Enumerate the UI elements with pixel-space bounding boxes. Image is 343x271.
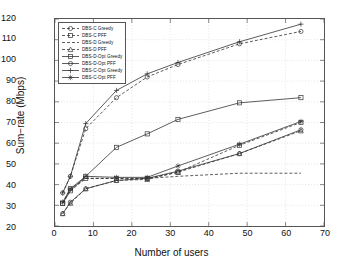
series-dbs-c-opt-pff <box>60 119 304 205</box>
legend-sample-square-icon <box>61 53 80 60</box>
figure-container: 2030405060708090100110120 01020304050607… <box>0 0 343 271</box>
legend-sample-circle-icon <box>61 60 80 67</box>
legend-item-dbs-c-greedy[interactable]: DBS-C Greedy <box>61 25 122 32</box>
x-tick-20: 20 <box>116 229 146 238</box>
legend-label: DBS-C PFF <box>82 32 107 39</box>
legend-label: DBS-C-Opt PFF <box>82 74 116 81</box>
legend-item-dbs-c-opt-greedy[interactable]: DBS-C-Opt Greedy <box>61 67 122 74</box>
legend-sample-star-icon <box>61 74 80 81</box>
series-dbs-d-opt-pff <box>61 128 303 216</box>
legend-item-dbs-d-opt-greedy[interactable]: DBS-D-Opt Greedy <box>61 53 122 60</box>
legend-label: DBS-D Greedy <box>82 39 113 46</box>
series-dbs-c-pff <box>61 120 303 205</box>
legend-item-dbs-d-opt-pff[interactable]: DBS-D-Opt PFF <box>61 60 122 67</box>
x-axis-label: Number of users <box>0 247 343 258</box>
series-dbs-d-greedy <box>63 173 301 203</box>
y-axis-label: Sum−rate (Mbps) <box>15 36 26 196</box>
x-tick-30: 30 <box>155 229 185 238</box>
legend-sample-triangle-icon <box>61 46 80 53</box>
x-tick-10: 10 <box>78 229 108 238</box>
legend-item-dbs-d-pff[interactable]: DBS-D PFF <box>61 46 122 53</box>
legend-item-dbs-c-opt-pff[interactable]: DBS-C-Opt PFF <box>61 74 122 81</box>
x-tick-60: 60 <box>271 229 301 238</box>
legend-sample-none-icon <box>61 39 80 46</box>
series-dbs-d-opt-greedy <box>61 96 303 206</box>
legend-label: DBS-D-Opt Greedy <box>82 53 122 60</box>
y-tick-120: 120 <box>0 14 16 23</box>
legend-label: DBS-C Greedy <box>82 25 113 32</box>
legend-sample-square-icon <box>61 32 80 39</box>
legend-label: DBS-D-Opt PFF <box>82 60 116 67</box>
legend-label: DBS-D PFF <box>82 46 107 53</box>
legend[interactable]: DBS-C GreedyDBS-C PFFDBS-D GreedyDBS-D P… <box>58 22 126 84</box>
y-tick-20: 20 <box>0 223 16 232</box>
legend-item-dbs-d-greedy[interactable]: DBS-D Greedy <box>61 39 122 46</box>
legend-item-dbs-c-pff[interactable]: DBS-C PFF <box>61 32 122 39</box>
legend-label: DBS-C-Opt Greedy <box>82 67 122 74</box>
y-tick-30: 30 <box>0 202 16 211</box>
legend-sample-plus-icon <box>61 67 80 74</box>
x-tick-50: 50 <box>233 229 263 238</box>
x-tick-0: 0 <box>39 229 69 238</box>
x-tick-70: 70 <box>310 229 340 238</box>
legend-sample-circle-icon <box>61 25 80 32</box>
x-tick-40: 40 <box>194 229 224 238</box>
series-dbs-d-pff <box>60 128 303 215</box>
